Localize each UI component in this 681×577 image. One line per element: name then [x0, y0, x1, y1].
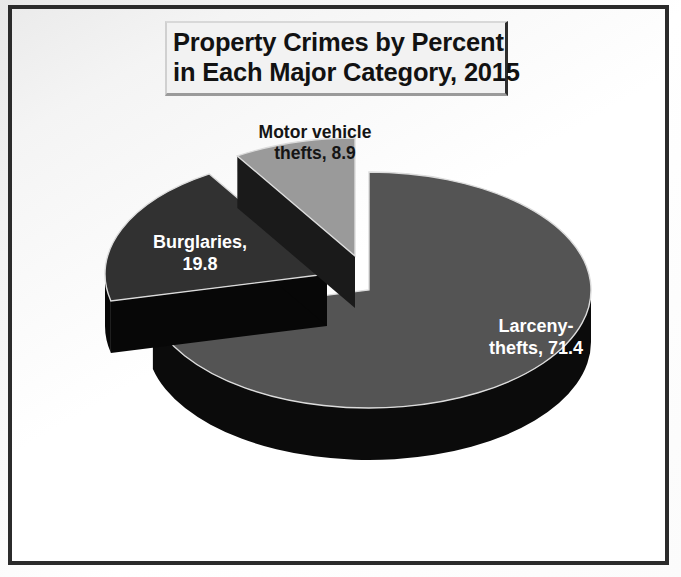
slice-label-burglaries-line1: Burglaries,	[112, 232, 288, 254]
screenshot-root: Motor vehicle thefts, 8.9 Burglaries, 19…	[0, 0, 681, 577]
slice-label-larceny-line1: Larceny-	[448, 316, 624, 338]
pie-chart: Motor vehicle thefts, 8.9 Burglaries, 19…	[24, 18, 681, 574]
chart-title-line2: in Each Major Category, 2015	[173, 57, 499, 87]
chart-title: Property Crimes by Percent in Each Major…	[165, 21, 508, 96]
slice-label-motor-vehicle: Motor vehicle thefts, 8.9	[220, 122, 410, 164]
pie-chart-svg	[24, 18, 681, 574]
slice-label-burglaries-line2: 19.8	[112, 254, 288, 276]
chart-title-line1: Property Crimes by Percent	[173, 27, 499, 57]
chart-frame: Motor vehicle thefts, 8.9 Burglaries, 19…	[8, 5, 669, 565]
slice-label-larceny: Larceny- thefts, 71.4	[448, 316, 624, 359]
slice-label-motor-vehicle-line2: thefts, 8.9	[220, 143, 410, 164]
slice-label-larceny-line2: thefts, 71.4	[448, 338, 624, 360]
slice-label-burglaries: Burglaries, 19.8	[112, 232, 288, 275]
slice-label-motor-vehicle-line1: Motor vehicle	[220, 122, 410, 143]
